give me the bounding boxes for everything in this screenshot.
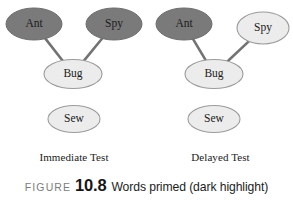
caption-figure-text: Words primed (dark highlight) xyxy=(111,180,268,194)
node-immediate-sew[interactable]: Sew xyxy=(48,106,100,133)
node-delayed-sew[interactable]: Sew xyxy=(188,106,240,133)
edge-delayed-spy-bug xyxy=(228,41,249,61)
edge-immediate-spy-bug xyxy=(84,38,102,60)
node-immediate-spy[interactable]: Spy xyxy=(86,8,142,40)
node-label-sew: Sew xyxy=(204,112,225,124)
nodes-layer: AntSpyBugSewAntSpyBugSew xyxy=(6,8,289,133)
node-label-ant: Ant xyxy=(175,17,193,29)
node-immediate-bug[interactable]: Bug xyxy=(44,60,102,89)
node-delayed-ant[interactable]: Ant xyxy=(156,8,212,40)
node-delayed-spy[interactable]: Spy xyxy=(237,12,289,44)
caption-figure-word: FIGURE xyxy=(25,181,71,193)
priming-diagram: AntSpyBugSewAntSpyBugSew xyxy=(0,0,293,146)
node-immediate-ant[interactable]: Ant xyxy=(6,8,62,40)
node-label-spy: Spy xyxy=(254,21,272,34)
node-label-bug: Bug xyxy=(204,67,223,80)
figure-caption: FIGURE 10.8 Words primed (dark highlight… xyxy=(0,176,293,198)
panel-title-delayed: Delayed Test xyxy=(148,151,293,163)
edges-layer xyxy=(45,38,248,61)
caption-figure-number: 10.8 xyxy=(75,176,106,195)
diagram-panels: AntSpyBugSewAntSpyBugSew xyxy=(0,0,293,146)
node-label-bug: Bug xyxy=(63,67,82,80)
node-label-ant: Ant xyxy=(25,17,43,29)
panel-title-immediate: Immediate Test xyxy=(0,151,148,163)
figure-container: AntSpyBugSewAntSpyBugSew Immediate Test … xyxy=(0,0,293,201)
edge-delayed-ant-bug xyxy=(193,39,206,60)
edge-immediate-ant-bug xyxy=(45,39,62,61)
node-delayed-bug[interactable]: Bug xyxy=(185,60,243,89)
node-label-sew: Sew xyxy=(64,112,85,124)
node-label-spy: Spy xyxy=(105,17,123,30)
